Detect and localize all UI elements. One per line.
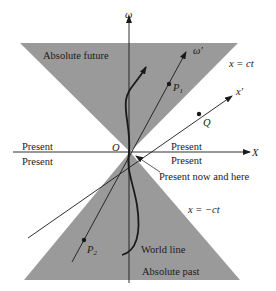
space-axis-label: X [251, 147, 259, 158]
present-lower-right: Present [171, 155, 202, 166]
present-upper-right: Present [171, 141, 202, 152]
point-p1 [167, 82, 171, 86]
light-line-past-label: x = −ct [187, 204, 221, 215]
present-lower-left: Present [22, 156, 53, 167]
absolute-future-label: Absolute future [43, 50, 109, 61]
light-cone-diagram: ω ω′ X x′ O Absolute future Absolute pas… [0, 0, 276, 291]
q-label: Q [203, 117, 211, 128]
space-prime-label: x′ [235, 86, 244, 97]
present-upper-left: Present [22, 141, 53, 152]
world-line-label: World line [141, 244, 186, 255]
origin-label: O [112, 142, 120, 153]
time-prime-label: ω′ [193, 45, 203, 56]
here-now-label: Present now and here [159, 171, 249, 182]
point-p2 [82, 238, 86, 242]
light-line-future-label: x = ct [228, 58, 255, 69]
absolute-past-label: Absolute past [142, 266, 200, 277]
point-q [197, 112, 201, 116]
time-axis-label: ω [125, 9, 132, 20]
